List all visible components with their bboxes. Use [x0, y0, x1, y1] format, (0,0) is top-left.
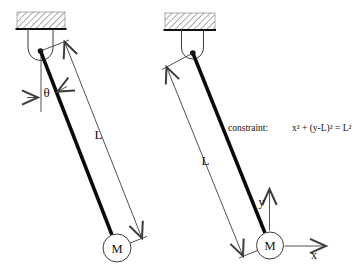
- pendulum-diagram: θ L M L constraint:: [0, 0, 353, 274]
- dim-extension-bottom-left: [130, 236, 147, 243]
- angle-arrow-right: [58, 87, 68, 92]
- pendulum-rod-right: [193, 53, 265, 233]
- angle-label: θ: [43, 85, 49, 100]
- y-axis-label: y: [259, 195, 265, 209]
- length-label-left: L: [95, 127, 103, 142]
- mass-label-left: M: [111, 242, 122, 256]
- right-pendulum: L constraint: x² + (y-L)² = L² y x M: [162, 13, 352, 262]
- pendulum-rod-left: [41, 51, 113, 235]
- dim-extension-bottom-right: [239, 251, 258, 259]
- diagram-svg: θ L M L constraint:: [0, 0, 353, 274]
- left-pendulum: θ L M: [16, 12, 148, 262]
- length-label-right: L: [202, 153, 210, 168]
- mass-label-right: M: [264, 239, 275, 253]
- ceiling-hatch-right: [165, 13, 215, 30]
- constraint-formula: x² + (y-L)² = L²: [292, 123, 352, 134]
- ceiling-hatch-left: [17, 12, 65, 29]
- x-axis-label: x: [311, 248, 317, 262]
- constraint-prefix: constraint:: [228, 123, 268, 133]
